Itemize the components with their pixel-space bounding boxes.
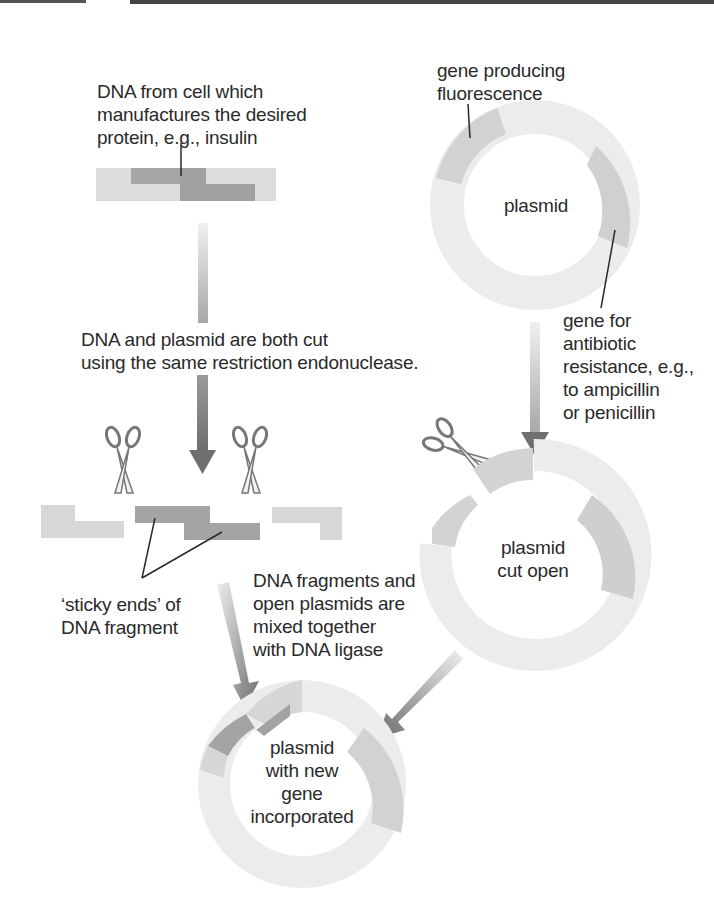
label-mix-step: DNA fragments and open plasmids are mixe… [253, 569, 415, 661]
arrow-head-down [189, 450, 216, 474]
label-cut-step: DNA and plasmid are both cut using the s… [81, 328, 418, 374]
label-source-dna: DNA from cell which manufactures the des… [97, 80, 307, 149]
arrow-shaft-lower [197, 375, 208, 450]
source-dna-strand [96, 168, 276, 201]
arrow-right-diagonal [378, 650, 463, 738]
label-plasmid: plasmid [486, 194, 586, 217]
pointer-line-sticky-1 [142, 518, 155, 578]
pointer-line-sticky-2 [142, 532, 222, 578]
arrow-shaft-upper [198, 223, 208, 323]
label-sticky-ends: ‘sticky ends’ of DNA fragment [61, 593, 181, 639]
arrow-shaft-right [530, 322, 540, 432]
label-antibiotic-gene: gene for antibiotic resistance, e.g., to… [563, 309, 694, 424]
scissors-icon [104, 426, 142, 493]
cut-dna-right-fragment [272, 507, 342, 540]
cut-dna-left-fragment [41, 505, 124, 538]
label-plasmid-cut-open: plasmid cut open [483, 536, 583, 582]
scissors-icon [231, 426, 269, 493]
label-recombinant-plasmid: plasmid with new gene incorporated [244, 736, 360, 828]
label-fluorescence-gene: gene producing fluorescence [437, 59, 565, 105]
